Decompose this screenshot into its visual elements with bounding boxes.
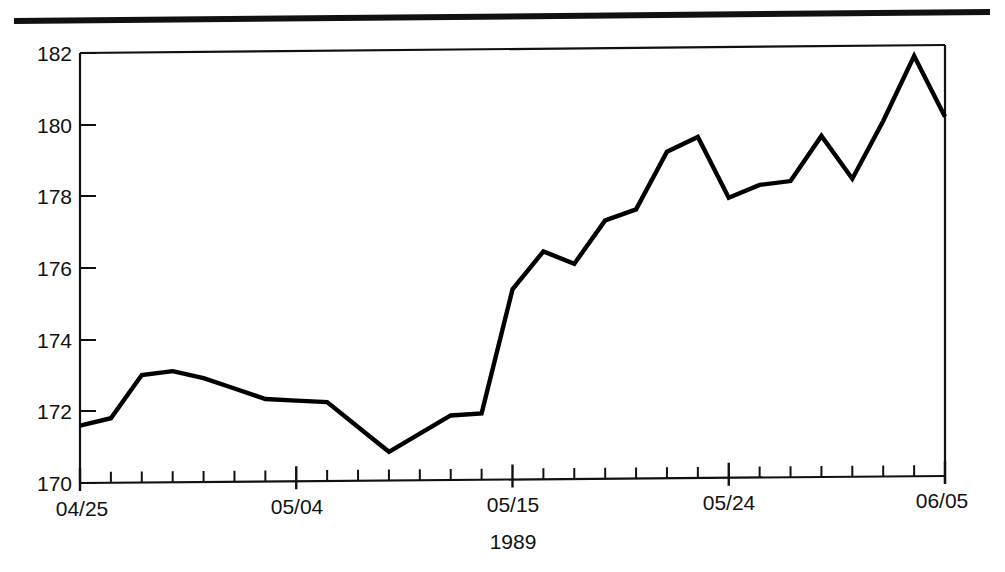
x-axis-tick-labels: 04/25 05/04 05/15 05/24 06/05 bbox=[56, 489, 969, 520]
y-axis-tick-labels: 170 172 174 176 178 180 182 bbox=[37, 42, 72, 495]
y-tick-label-4: 178 bbox=[37, 185, 72, 208]
x-tick-label-3: 05/24 bbox=[703, 491, 756, 514]
y-tick-label-3: 176 bbox=[37, 257, 72, 280]
data-series-line bbox=[80, 56, 945, 452]
x-tick-label-0: 04/25 bbox=[56, 497, 109, 520]
y-tick-label-5: 180 bbox=[37, 114, 72, 137]
y-tick-label-1: 172 bbox=[37, 400, 72, 423]
y-axis-ticks bbox=[80, 53, 96, 483]
y-tick-label-2: 174 bbox=[37, 329, 72, 352]
frame-top-edge bbox=[80, 45, 945, 53]
x-tick-label-1: 05/04 bbox=[271, 495, 324, 518]
line-chart-svg: 170 172 174 176 178 180 182 04/25 05/04 … bbox=[0, 0, 1005, 572]
plot-frame bbox=[80, 45, 945, 483]
top-horizontal-rule bbox=[14, 9, 990, 24]
x-axis-title: 1989 bbox=[490, 530, 537, 553]
y-tick-label-6: 182 bbox=[37, 42, 72, 65]
chart-figure: 170 172 174 176 178 180 182 04/25 05/04 … bbox=[0, 0, 1005, 572]
x-tick-label-4: 06/05 bbox=[916, 489, 969, 512]
x-tick-label-2: 05/15 bbox=[487, 493, 540, 516]
y-tick-label-0: 170 bbox=[37, 472, 72, 495]
